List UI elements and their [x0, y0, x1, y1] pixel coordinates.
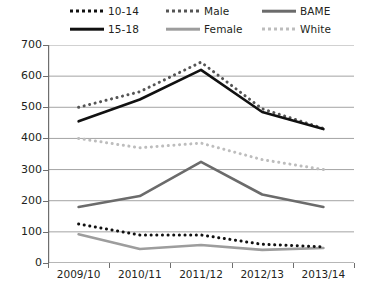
- x-tick-label: 2013/14: [288, 268, 358, 280]
- legend-swatch-white: [262, 24, 296, 35]
- legend-item-male[interactable]: Male: [166, 2, 262, 20]
- x-tick-mark: [170, 263, 171, 268]
- x-tick-label: 2010/11: [105, 268, 175, 280]
- line-chart: 10-14 15-18 Male Female BAME White 70060…: [0, 0, 371, 291]
- legend-swatch-15-18: [70, 24, 104, 35]
- legend-label-female: Female: [204, 23, 243, 35]
- legend-label-10-14: 10-14: [108, 5, 139, 17]
- legend-item-female[interactable]: Female: [166, 20, 262, 38]
- x-tick-label: 2009/10: [44, 268, 114, 280]
- y-tick-label: 100: [2, 226, 42, 237]
- chart-legend: 10-14 15-18 Male Female BAME White: [70, 2, 366, 38]
- series-line-white: [79, 138, 324, 169]
- x-tick-label: 2012/13: [227, 268, 297, 280]
- y-tick-label: 200: [2, 195, 42, 206]
- legend-label-15-18: 15-18: [108, 23, 139, 35]
- legend-swatch-male: [166, 6, 200, 17]
- series-line-bame: [79, 162, 324, 207]
- legend-item-15-18[interactable]: 15-18: [70, 20, 166, 38]
- x-tick-mark: [48, 263, 49, 268]
- legend-swatch-female: [166, 24, 200, 35]
- y-tick-label: 700: [2, 39, 42, 50]
- legend-swatch-bame: [262, 6, 296, 17]
- legend-label-white: White: [300, 23, 331, 35]
- y-tick-label: 400: [2, 132, 42, 143]
- series-line-15-18: [79, 70, 324, 129]
- y-tick-label: 600: [2, 70, 42, 81]
- legend-item-bame[interactable]: BAME: [262, 2, 366, 20]
- chart-svg: [48, 45, 354, 263]
- x-tick-mark: [232, 263, 233, 268]
- legend-label-male: Male: [204, 5, 229, 17]
- plot-area: [48, 45, 354, 263]
- y-tick-label: 300: [2, 164, 42, 175]
- legend-swatch-10-14: [70, 6, 104, 17]
- y-tick-label: 0: [2, 257, 42, 268]
- x-tick-label: 2011/12: [166, 268, 236, 280]
- legend-item-white[interactable]: White: [262, 20, 366, 38]
- series-line-female: [79, 234, 324, 250]
- legend-label-bame: BAME: [300, 5, 330, 17]
- x-tick-mark: [293, 263, 294, 268]
- y-tick-label: 500: [2, 101, 42, 112]
- x-tick-mark: [109, 263, 110, 268]
- legend-item-10-14[interactable]: 10-14: [70, 2, 166, 20]
- x-tick-mark: [354, 263, 355, 268]
